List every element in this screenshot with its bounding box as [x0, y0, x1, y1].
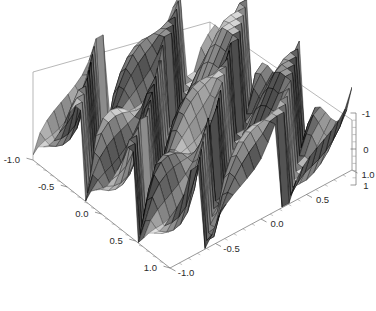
y-tick-minor: [288, 204, 291, 206]
surface-plot-figure: -1.0-0.50.00.51.0-1.0-0.50.00.51.0-101: [0, 0, 376, 311]
y-tick-minor: [188, 258, 191, 260]
y-tick-label: 1.0: [361, 169, 374, 180]
y-tick-minor: [234, 234, 237, 236]
y-tick-minor: [325, 185, 328, 187]
x-tick-label: -1.0: [4, 154, 20, 165]
y-tick-label: 0.0: [270, 218, 283, 229]
z-tick-label: 1: [363, 180, 368, 191]
x-tick-major: [27, 158, 34, 160]
x-tick-label: 1.0: [144, 262, 157, 273]
y-tick-minor: [343, 175, 346, 177]
y-tick-label: -0.5: [223, 243, 239, 254]
z-tick-label: 0: [363, 144, 368, 155]
y-tick-minor: [206, 248, 209, 250]
z-axis-group: [351, 113, 357, 185]
x-tick-label: 0.0: [75, 208, 88, 219]
y-tick-label: 0.5: [316, 194, 329, 205]
y-tick-minor: [225, 239, 228, 241]
y-tick-label: -1.0: [178, 267, 194, 278]
y-tick-minor: [334, 180, 337, 182]
y-tick-minor: [270, 214, 273, 216]
x-tick-label: -0.5: [38, 181, 54, 192]
plot-canvas: -1.0-0.50.00.51.0-1.0-0.50.00.51.0-101: [0, 0, 376, 311]
y-tick-major: [216, 244, 222, 247]
y-tick-major: [261, 219, 267, 222]
y-tick-minor: [279, 209, 282, 211]
y-tick-minor: [316, 190, 319, 192]
y-tick-minor: [252, 224, 255, 226]
y-tick-major: [170, 268, 176, 271]
y-tick-minor: [297, 199, 300, 201]
y-tick-minor: [243, 229, 246, 231]
z-tick-label: -1: [362, 108, 370, 119]
y-tick-minor: [197, 253, 200, 255]
y-tick-major: [307, 195, 313, 198]
y-tick-minor: [179, 263, 182, 265]
x-tick-label: 0.5: [110, 235, 123, 246]
